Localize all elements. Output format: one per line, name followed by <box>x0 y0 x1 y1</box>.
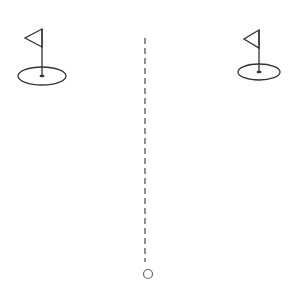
game-scene[interactable] <box>0 0 304 289</box>
flag-icon <box>244 30 259 48</box>
flag-icon <box>25 29 42 47</box>
left-hole[interactable] <box>18 29 66 85</box>
golf-game-canvas[interactable] <box>0 0 304 289</box>
right-hole[interactable] <box>238 30 280 80</box>
golf-ball[interactable] <box>144 270 153 279</box>
